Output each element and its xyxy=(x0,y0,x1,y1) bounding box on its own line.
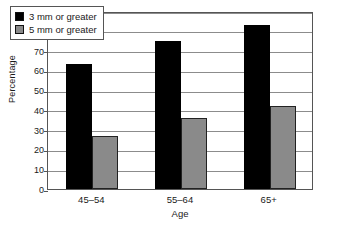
bar-chart-figure: Percentage 0102030405060708090 45–5455–6… xyxy=(0,0,337,236)
y-tick-label-10: 10 xyxy=(14,166,44,175)
legend-label: 5 mm or greater xyxy=(29,25,97,35)
legend-item: 5 mm or greater xyxy=(15,23,97,36)
y-tick-label-0: 0 xyxy=(14,186,44,195)
legend-swatch-icon xyxy=(15,12,24,21)
bar xyxy=(270,106,296,189)
bar xyxy=(92,136,118,189)
bar xyxy=(181,118,207,189)
bar xyxy=(244,25,270,189)
bar xyxy=(155,41,181,189)
bar xyxy=(66,64,92,189)
bar-group xyxy=(244,13,296,189)
y-tick-label-60: 60 xyxy=(14,67,44,76)
y-tick-label-70: 70 xyxy=(14,48,44,57)
bar-group xyxy=(155,13,207,189)
y-tick-label-20: 20 xyxy=(14,146,44,155)
x-tick-label: 65+ xyxy=(224,194,313,205)
y-tick-label-50: 50 xyxy=(14,87,44,96)
legend-item: 3 mm or greater xyxy=(15,10,97,23)
y-tick-label-30: 30 xyxy=(14,127,44,136)
y-tick-label-40: 40 xyxy=(14,107,44,116)
legend-swatch-icon xyxy=(15,25,24,34)
x-tick-label: 55–64 xyxy=(136,194,225,205)
y-tickmark-0 xyxy=(44,191,48,192)
x-axis-title: Age xyxy=(47,208,313,219)
legend-label: 3 mm or greater xyxy=(29,12,97,22)
x-tick-label: 45–54 xyxy=(47,194,136,205)
chart-legend: 3 mm or greater5 mm or greater xyxy=(10,6,104,40)
x-axis-tick-labels: 45–5455–6465+ xyxy=(47,194,313,208)
